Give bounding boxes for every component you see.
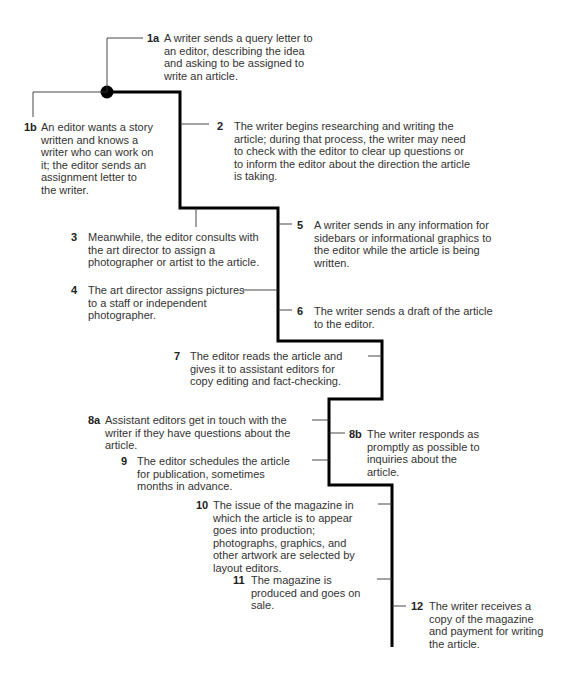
step-4: 4 The art director assigns pictures to a… [68,284,258,322]
step-number: 8b [349,428,362,441]
step-text: The writer begins researching and writin… [234,120,473,183]
step-9: 9 The editor schedules the article for p… [120,455,310,493]
step-text: The writer receives a copy of the magazi… [429,600,547,650]
step-6: 6 The writer sends a draft of the articl… [296,305,496,330]
step-number: 8a [88,414,100,427]
step-text: A writer sends in any information for si… [314,219,496,269]
step-8b: 8b The writer responds as promptly as po… [349,428,489,478]
connector-1a [107,38,143,92]
step-1a: 1a A writer sends a query letter to an e… [147,32,322,82]
step-number: 1b [24,121,37,134]
step-number: 11 [233,574,245,587]
step-number: 9 [121,455,127,468]
step-number: 7 [174,350,180,363]
step-1b: 1b An editor wants a story written and k… [24,121,154,197]
step-11: 11 The magazine is produced and goes on … [233,574,378,612]
step-number: 10 [196,499,208,512]
step-number: 2 [217,120,223,133]
step-text: The magazine is produced and goes on sal… [251,574,376,612]
connector-1b [33,92,107,117]
step-2: 2 The writer begins researching and writ… [215,120,473,183]
step-text: A writer sends a query letter to an edit… [164,32,322,82]
step-text: The issue of the magazine in which the a… [213,499,373,575]
step-text: An editor wants a story written and know… [41,121,154,197]
step-text: The editor reads the article and gives i… [190,350,350,388]
step-5: 5 A writer sends in any information for … [296,219,496,269]
step-3: 3 Meanwhile, the editor consults with th… [68,231,268,269]
step-text: Assistant editors get in touch with the … [105,414,313,452]
step-text: The writer responds as promptly as possi… [367,428,489,478]
step-text: The editor schedules the article for pub… [137,455,297,493]
step-number: 12 [411,600,423,613]
step-text: The writer sends a draft of the article … [314,305,496,330]
step-number: 3 [71,231,77,244]
step-12: 12 The writer receives a copy of the mag… [411,600,551,650]
step-number: 1a [147,32,159,45]
step-text: Meanwhile, the editor consults with the … [88,231,268,269]
step-text: The art director assigns pictures to a s… [88,284,248,322]
step-8a: 8a Assistant editors get in touch with t… [88,414,313,452]
step-7: 7 The editor reads the article and gives… [172,350,367,388]
step-number: 4 [71,284,77,297]
step-number: 5 [297,219,303,232]
step-number: 6 [297,305,303,318]
step-10: 10 The issue of the magazine in which th… [196,499,376,575]
